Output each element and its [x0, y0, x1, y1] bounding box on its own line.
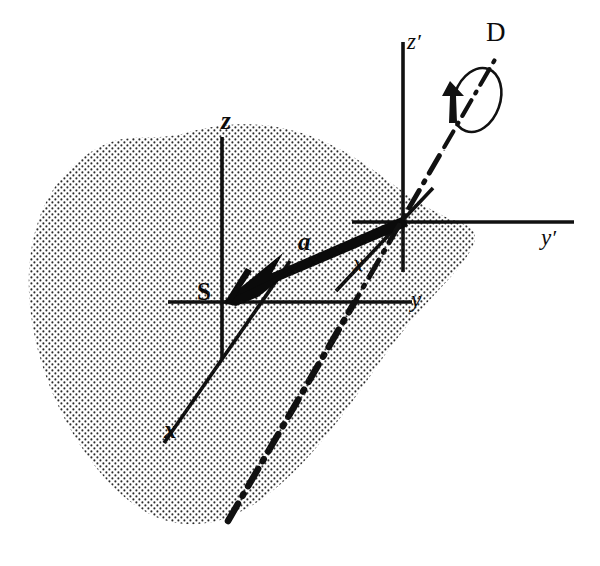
label-origin-S: S	[197, 279, 211, 304]
label-axis-x: x	[164, 417, 177, 442]
diagram-svg	[0, 0, 600, 566]
label-axis-z: z	[221, 108, 231, 133]
blob-stipple-fill	[0, 0, 600, 566]
shaded-body-blob	[0, 0, 600, 566]
label-axis-y: y	[411, 288, 421, 311]
label-axis-y-primed: y′	[541, 226, 556, 250]
label-vector-a: a	[298, 229, 311, 254]
label-axis-x-primed: x	[353, 252, 363, 275]
label-axis-z-prime-mark: ′	[416, 30, 421, 54]
label-axis-z-primed-text: z	[407, 29, 416, 54]
label-rotation-axis-D: D	[486, 19, 506, 46]
label-axis-y-primed-text: y	[541, 225, 551, 250]
figure-canvas: S z y x z′ y′ x a D	[0, 0, 600, 566]
label-axis-y-prime-mark: ′	[551, 226, 556, 250]
label-axis-z-primed: z′	[407, 30, 421, 54]
